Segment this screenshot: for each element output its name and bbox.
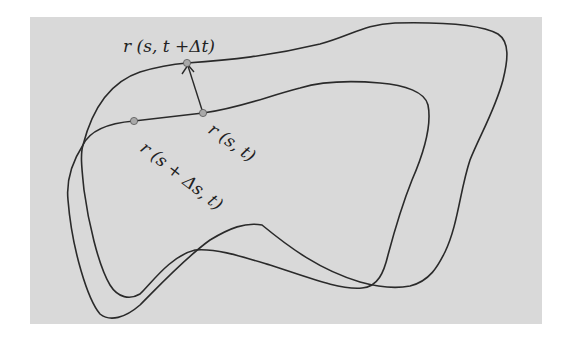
diagram-canvas: r (s, t +Δt) r (s, t) r (s + Δs, t) (0, 0, 568, 343)
curve-t-plus-dt (68, 23, 507, 318)
surface-evolution-diagram: r (s, t +Δt) r (s, t) r (s + Δs, t) (0, 0, 568, 343)
point-r-s-t (199, 109, 206, 116)
label-r-s-t: r (s, t) (205, 119, 260, 166)
curve-t (81, 82, 429, 298)
label-r-s-plus-ds-t: r (s + Δs, t) (137, 137, 227, 214)
point-r-s-plus-ds-t (130, 117, 137, 124)
point-r-s-t-plus-dt (183, 59, 190, 66)
displacement-arrow (188, 66, 203, 113)
label-r-s-t-plus-dt: r (s, t +Δt) (123, 36, 215, 56)
